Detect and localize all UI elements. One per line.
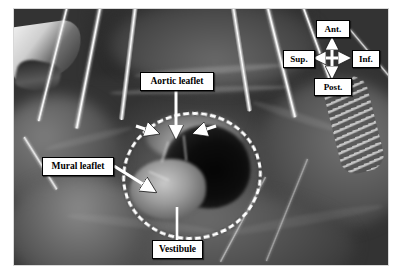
compass-label-superior[interactable]: Sup.: [283, 50, 315, 68]
compass-label-posterior[interactable]: Post.: [314, 78, 352, 96]
compass-superior-text: Sup.: [290, 54, 307, 64]
compass-anterior-text: Ant.: [325, 24, 342, 34]
figure-canvas: Aortic leaflet Mural leaflet Vestibule A…: [0, 0, 399, 278]
callout-aortic-leaflet-label: Aortic leaflet: [150, 76, 203, 86]
compass-inferior-text: Inf.: [359, 54, 373, 64]
compass-label-inferior[interactable]: Inf.: [352, 50, 380, 68]
orientation-compass: Ant. Sup. Inf. Post.: [283, 20, 383, 94]
callout-vestibule-label: Vestibule: [159, 244, 196, 254]
compass-posterior-text: Post.: [324, 82, 343, 92]
callout-aortic-leaflet[interactable]: Aortic leaflet: [140, 72, 214, 91]
callout-mural-leaflet-label: Mural leaflet: [51, 161, 104, 171]
callout-vestibule[interactable]: Vestibule: [152, 240, 203, 259]
compass-label-anterior[interactable]: Ant.: [316, 20, 350, 38]
callout-mural-leaflet[interactable]: Mural leaflet: [42, 157, 114, 176]
